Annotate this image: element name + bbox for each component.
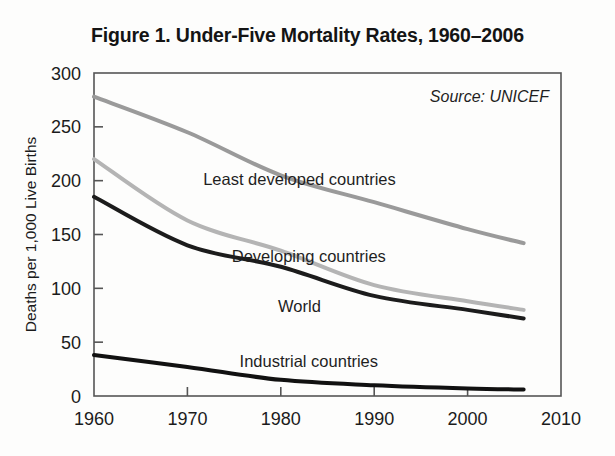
- x-tick-label: 1980: [261, 409, 301, 429]
- series-label-2: World: [278, 297, 321, 315]
- source-annotation: Source: UNICEF: [430, 88, 550, 105]
- series-label-0: Least developed countries: [203, 170, 396, 188]
- x-tick-label: 2000: [448, 409, 488, 429]
- y-tick-label: 100: [51, 279, 81, 299]
- x-tick-label: 1960: [74, 409, 114, 429]
- y-tick-label: 0: [71, 387, 81, 407]
- y-tick-label: 300: [51, 64, 81, 84]
- figure-container: Figure 1. Under-Five Mortality Rates, 19…: [0, 0, 615, 456]
- y-tick-label: 50: [61, 333, 81, 353]
- series-label-3: Industrial countries: [240, 352, 379, 370]
- x-tick-label: 1990: [354, 409, 394, 429]
- chart-plot: 050100150200250300 196019701980199020002…: [0, 0, 615, 456]
- series-lines: [94, 97, 524, 390]
- series-label-1: Developing countries: [232, 247, 386, 265]
- y-tick-label: 150: [51, 225, 81, 245]
- x-tick-label: 1970: [167, 409, 207, 429]
- y-axis-title: Deaths per 1,000 Live Births: [22, 136, 39, 332]
- x-tick-label: 2010: [541, 409, 581, 429]
- y-tick-label: 250: [51, 117, 81, 137]
- y-tick-label: 200: [51, 171, 81, 191]
- x-axis-ticks: 196019701980199020002010: [74, 387, 581, 429]
